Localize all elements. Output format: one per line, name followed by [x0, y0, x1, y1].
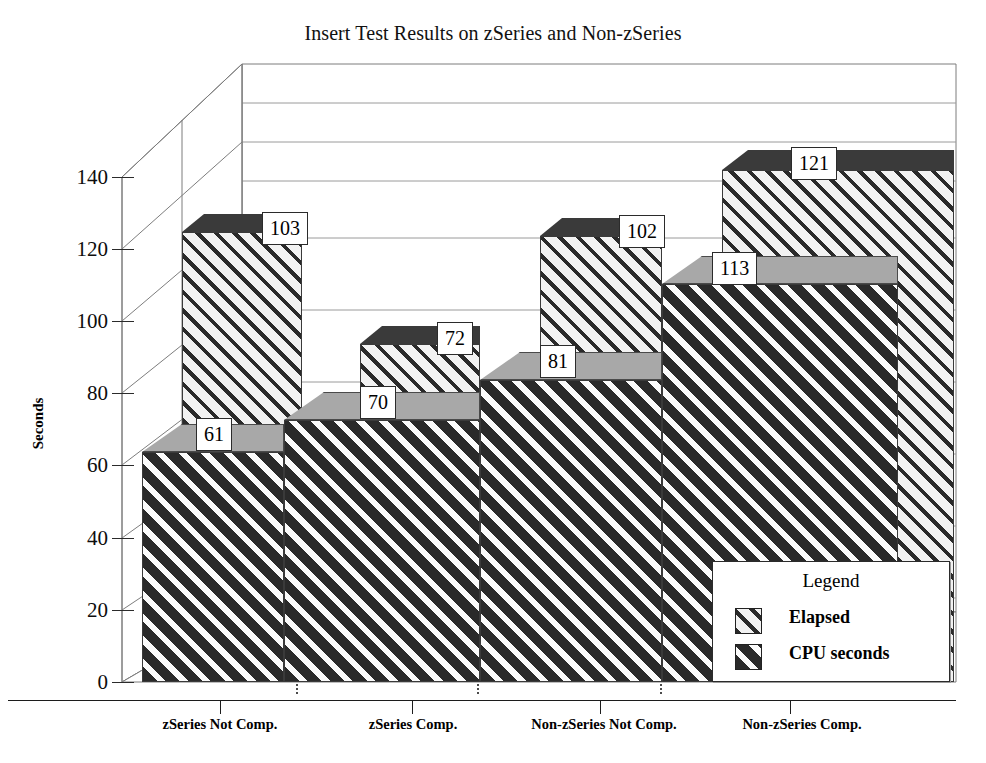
- bar-front-face: [284, 420, 480, 682]
- y-tick-dash-120: [112, 249, 134, 250]
- value-label-cpu-group4: 113: [712, 252, 757, 285]
- x-tick-1: [220, 700, 221, 714]
- x-category-label-2: zSeries Comp.: [330, 716, 496, 733]
- x-category-label-3: Non-zSeries Not Comp.: [494, 716, 714, 733]
- x-tick-4: [790, 700, 791, 714]
- value-label-cpu-group1: 61: [196, 418, 232, 451]
- y-tick-20: 20: [42, 598, 108, 623]
- bar-top-face: [662, 256, 898, 284]
- x-axis-line: [8, 700, 956, 701]
- legend-item-elapsed[interactable]: Elapsed: [735, 606, 935, 636]
- x-category-label-4: Non-zSeries Comp.: [702, 716, 902, 733]
- bar-front-face: [142, 452, 284, 682]
- legend-swatch-elapsed-icon: [735, 608, 762, 634]
- bar-cpu-group3[interactable]: [480, 0, 662, 682]
- y-tick-100: 100: [42, 309, 108, 334]
- legend-label-cpu-seconds: CPU seconds: [789, 643, 890, 664]
- legend: Legend Elapsed CPU seconds: [712, 561, 950, 682]
- y-tick-0: 0: [42, 670, 108, 695]
- y-tick-dash-80: [112, 393, 134, 394]
- legend-label-elapsed: Elapsed: [789, 607, 850, 628]
- value-label-cpu-group3: 81: [540, 345, 576, 378]
- chart-3d-bar: Insert Test Results on zSeries and Non-z…: [0, 0, 986, 763]
- y-tick-40: 40: [42, 526, 108, 551]
- y-tick-80: 80: [42, 381, 108, 406]
- bar-front-face: [480, 380, 662, 682]
- legend-title: Legend: [713, 570, 949, 592]
- x-tick-2: [412, 700, 413, 714]
- value-label-elapsed-group4: 121: [791, 147, 837, 180]
- legend-swatch-cpu-seconds-icon: [735, 644, 762, 670]
- x-tick-3: [600, 700, 601, 714]
- y-tick-dash-60: [112, 465, 134, 466]
- y-tick-dash-100: [112, 321, 134, 322]
- value-label-elapsed-group1: 103: [262, 212, 308, 245]
- y-tick-dash-140: [112, 177, 134, 178]
- value-label-elapsed-group3: 102: [619, 215, 665, 248]
- x-category-label-1: zSeries Not Comp.: [130, 716, 310, 733]
- value-label-cpu-group2: 70: [360, 386, 396, 419]
- y-tick-120: 120: [42, 237, 108, 262]
- y-tick-dash-0: [112, 682, 134, 683]
- bar-cpu-group1[interactable]: [142, 0, 284, 682]
- value-label-elapsed-group2: 72: [437, 322, 473, 355]
- y-tick-dash-40: [112, 538, 134, 539]
- y-tick-dash-20: [112, 610, 134, 611]
- legend-item-cpu-seconds[interactable]: CPU seconds: [735, 642, 935, 672]
- y-tick-140: 140: [42, 165, 108, 190]
- y-tick-60: 60: [42, 453, 108, 478]
